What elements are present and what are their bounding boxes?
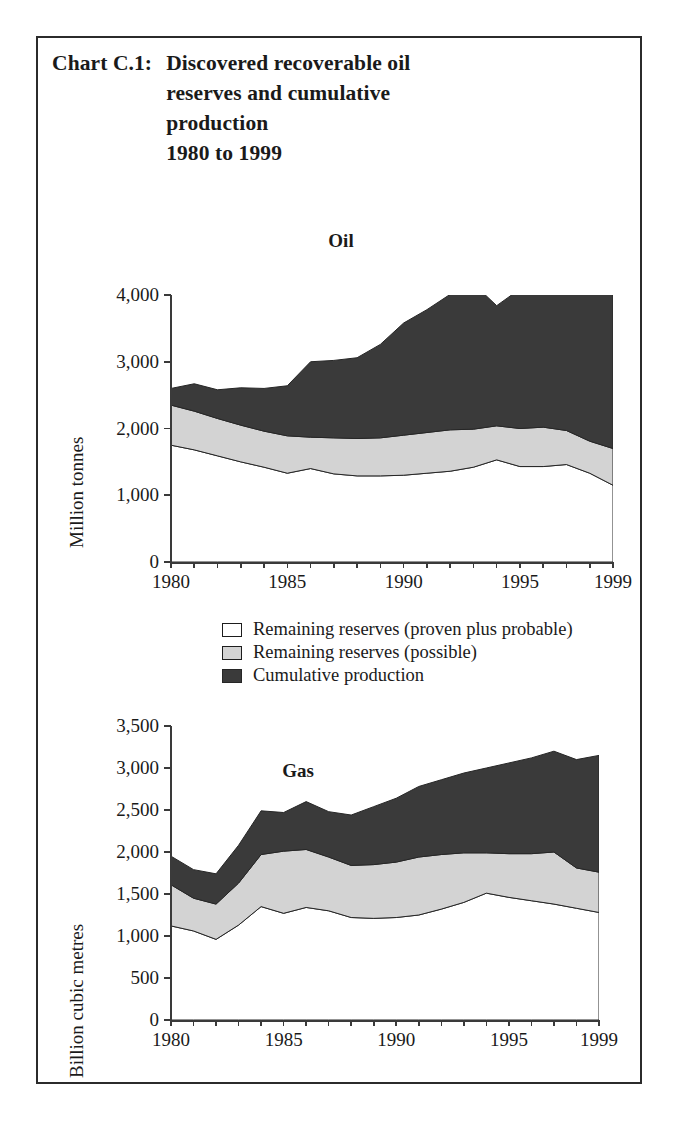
gas-y-tick-label: 3,000 <box>93 757 159 779</box>
gas-y-tick <box>164 767 171 769</box>
oil-x-tick <box>496 562 498 568</box>
gas-x-tick <box>170 1020 172 1026</box>
oil-x-tick <box>426 562 428 568</box>
oil-x-axis-line <box>170 562 613 564</box>
title-line-3: production <box>166 108 410 138</box>
oil-x-tick-label: 1999 <box>594 571 632 593</box>
gas-x-axis-line <box>170 1020 599 1022</box>
title-line-4: 1980 to 1999 <box>166 138 410 168</box>
gas-y-axis-label: Billion cubic metres <box>66 924 88 1078</box>
oil-x-tick <box>356 562 358 568</box>
oil-x-tick-label: 1990 <box>385 571 423 593</box>
oil-y-axis-label: Million tonnes <box>66 437 88 548</box>
gas-y-tick <box>164 935 171 937</box>
chart-legend: Remaining reserves (proven plus probable… <box>222 618 573 687</box>
dark-swatch-icon <box>222 669 242 683</box>
gas-x-tick <box>238 1020 240 1026</box>
oil-x-tick-label: 1980 <box>152 571 190 593</box>
gas-x-tick <box>531 1020 533 1026</box>
oil-y-tick-label: 1,000 <box>93 484 159 506</box>
oil-x-tick <box>473 562 475 568</box>
oil-y-tick <box>164 361 171 363</box>
gas-plot-area <box>171 726 599 1020</box>
gas-x-tick-label: 1999 <box>580 1029 618 1051</box>
oil-plot-area <box>171 295 613 562</box>
gas-y-tick <box>164 977 171 979</box>
gas-x-tick <box>350 1020 352 1026</box>
oil-x-tick <box>589 562 591 568</box>
white-swatch-icon <box>222 623 242 637</box>
chart-title-lines: Discovered recoverable oil reserves and … <box>166 48 410 168</box>
oil-chart-title: Oil <box>38 230 644 252</box>
oil-x-tick <box>240 562 242 568</box>
gas-y-tick-label: 2,500 <box>93 799 159 821</box>
gas-y-tick <box>164 893 171 895</box>
legend-label-proven-probable: Remaining reserves (proven plus probable… <box>253 620 573 639</box>
oil-x-tick-label: 1995 <box>501 571 539 593</box>
legend-item-cumulative-production: Cumulative production <box>222 664 573 687</box>
gas-x-tick <box>486 1020 488 1026</box>
oil-x-tick <box>542 562 544 568</box>
oil-y-tick-label: 2,000 <box>93 418 159 440</box>
gas-y-tick-label: 500 <box>93 967 159 989</box>
chart-number-label: Chart C.1: <box>52 48 166 78</box>
oil-x-tick <box>612 562 614 568</box>
gas-x-tick-label: 1990 <box>377 1029 415 1051</box>
gas-x-tick <box>328 1020 330 1026</box>
gas-x-tick-label: 1985 <box>265 1029 303 1051</box>
oil-y-tick-label: 3,000 <box>93 351 159 373</box>
oil-x-tick <box>263 562 265 568</box>
gas-x-tick <box>215 1020 217 1026</box>
oil-x-tick <box>310 562 312 568</box>
oil-x-tick-label: 1985 <box>268 571 306 593</box>
gas-y-tick <box>164 725 171 727</box>
legend-item-possible: Remaining reserves (possible) <box>222 641 573 664</box>
light-gray-swatch-icon <box>222 646 242 660</box>
gas-x-tick <box>553 1020 555 1026</box>
legend-label-possible: Remaining reserves (possible) <box>253 643 477 662</box>
gas-x-tick <box>193 1020 195 1026</box>
oil-y-tick <box>164 294 171 296</box>
oil-y-tick <box>164 428 171 430</box>
gas-y-tick-label: 2,000 <box>93 841 159 863</box>
gas-x-tick-label: 1995 <box>490 1029 528 1051</box>
gas-y-tick <box>164 851 171 853</box>
oil-x-tick <box>380 562 382 568</box>
gas-x-tick <box>441 1020 443 1026</box>
gas-y-tick <box>164 809 171 811</box>
oil-x-tick <box>566 562 568 568</box>
oil-x-tick <box>217 562 219 568</box>
gas-y-tick-label: 0 <box>93 1009 159 1031</box>
legend-item-proven-probable: Remaining reserves (proven plus probable… <box>222 618 573 641</box>
oil-y-tick <box>164 494 171 496</box>
oil-y-tick-label: 0 <box>93 551 159 573</box>
title-line-2: reserves and cumulative <box>166 78 410 108</box>
gas-y-tick-label: 1,000 <box>93 925 159 947</box>
oil-x-tick <box>449 562 451 568</box>
gas-x-tick-label: 1980 <box>152 1029 190 1051</box>
oil-x-tick <box>519 562 521 568</box>
oil-x-tick <box>170 562 172 568</box>
title-line-1: Discovered recoverable oil <box>166 48 410 78</box>
gas-chart-panel: Gas Billion cubic metres 05001,0001,5002… <box>38 698 644 1086</box>
gas-x-tick <box>395 1020 397 1026</box>
oil-x-tick <box>193 562 195 568</box>
oil-chart-panel: Oil Million tonnes 01,0002,0003,0004,000… <box>38 218 644 578</box>
oil-y-tick-label: 4,000 <box>93 284 159 306</box>
gas-x-tick <box>305 1020 307 1026</box>
gas-x-tick <box>463 1020 465 1026</box>
figure-frame: Chart C.1: Discovered recoverable oil re… <box>36 36 642 1084</box>
gas-y-tick-label: 3,500 <box>93 715 159 737</box>
oil-x-tick <box>287 562 289 568</box>
legend-label-cumulative-production: Cumulative production <box>253 666 424 685</box>
oil-x-tick <box>403 562 405 568</box>
gas-x-tick <box>260 1020 262 1026</box>
gas-y-tick-label: 1,500 <box>93 883 159 905</box>
figure-title-block: Chart C.1: Discovered recoverable oil re… <box>52 48 627 168</box>
gas-x-tick <box>418 1020 420 1026</box>
gas-x-tick <box>283 1020 285 1026</box>
oil-x-tick <box>333 562 335 568</box>
gas-x-tick <box>373 1020 375 1026</box>
gas-x-tick <box>576 1020 578 1026</box>
gas-x-tick <box>508 1020 510 1026</box>
